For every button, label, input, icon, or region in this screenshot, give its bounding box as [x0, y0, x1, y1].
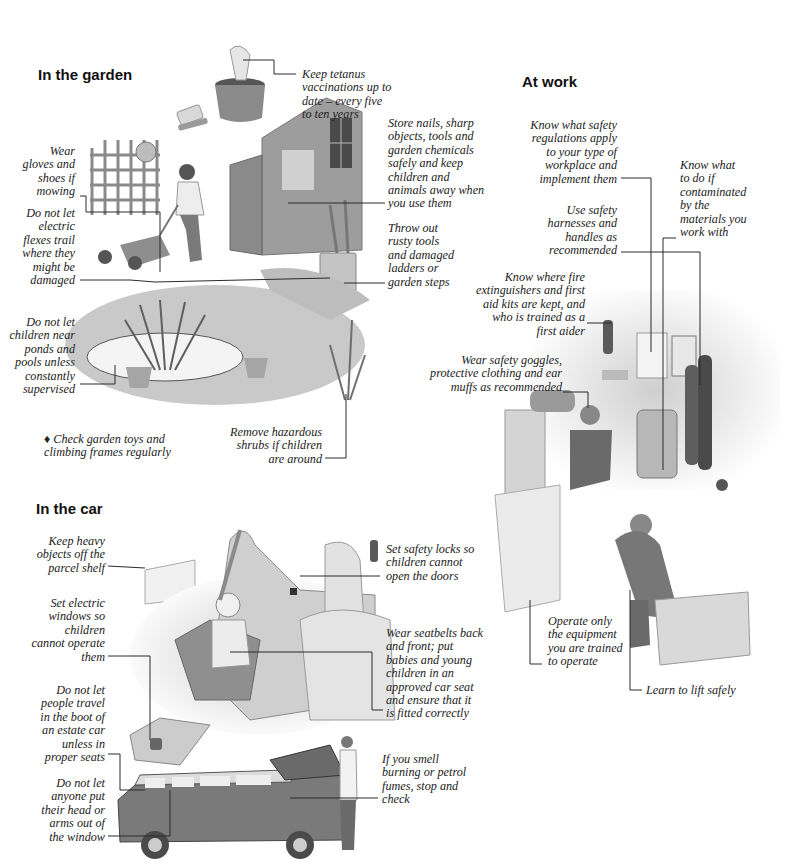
caption-fire-extinguishers: Know where fire extinguishers and first … — [476, 271, 585, 338]
leader-shrubs — [325, 394, 346, 458]
caption-head-arms-window: Do not let anyone put their head or arms… — [41, 777, 105, 844]
caption-burning-fumes: If you smell burning or petrol fumes, st… — [382, 753, 466, 807]
caption-store-safely: Store nails, sharp objects, tools and ga… — [388, 117, 484, 211]
leader-boot — [108, 754, 145, 790]
leader-flexes — [80, 278, 330, 282]
heading-garden: In the garden — [38, 66, 132, 83]
leader-ponds — [80, 365, 115, 384]
caption-safety-regulations: Know what safety regulations apply to yo… — [530, 119, 617, 186]
caption-contaminated: Know what to do if contaminated by the m… — [680, 159, 747, 239]
caption-electric-windows: Set electric windows so children cannot … — [32, 597, 105, 664]
leader-tetanus — [243, 60, 296, 74]
caption-estate-boot: Do not let people travel in the boot of … — [40, 684, 105, 764]
heading-work: At work — [522, 73, 577, 90]
caption-electric-flexes: Do not let electric flexes trail where t… — [22, 207, 75, 287]
leader-head — [108, 790, 170, 836]
leader-harnesses — [621, 252, 700, 385]
caption-tetanus: Keep tetanus vaccinations up to date – e… — [302, 68, 391, 122]
caption-gloves-shoes: Wear gloves and shoes if mowing — [23, 145, 75, 199]
caption-lift-safely: Learn to lift safely — [646, 684, 736, 697]
caption-garden-toys: ♦ Check garden toys and climbing frames … — [44, 433, 171, 460]
leader-goggles — [563, 392, 588, 408]
leader-seatbelts — [230, 652, 383, 710]
leader-parcel — [108, 566, 145, 568]
caption-safety-harnesses: Use safety harnesses and handles as reco… — [548, 204, 617, 258]
leader-gloves — [80, 196, 160, 272]
leader-regulations — [621, 178, 651, 352]
caption-ponds: Do not let children near ponds and pools… — [9, 316, 75, 396]
leader-operate — [530, 600, 542, 664]
leader-contaminated — [663, 238, 676, 470]
caption-safety-locks: Set safety locks so children cannot open… — [386, 543, 474, 583]
leader-windows — [108, 656, 150, 740]
caption-throw-out-tools: Throw out rusty tools and damaged ladder… — [388, 222, 454, 289]
caption-operate-equipment: Operate only the equipment you are train… — [548, 615, 623, 669]
heading-car: In the car — [36, 500, 103, 517]
caption-safety-goggles: Wear safety goggles, protective clothing… — [430, 354, 562, 394]
leader-lift — [630, 590, 642, 690]
caption-parcel-shelf: Keep heavy objects off the parcel shelf — [37, 535, 105, 575]
caption-seatbelts: Wear seatbelts back and front; put babie… — [386, 627, 483, 721]
caption-hazardous-shrubs: Remove hazardous shrubs if children are … — [230, 426, 322, 466]
